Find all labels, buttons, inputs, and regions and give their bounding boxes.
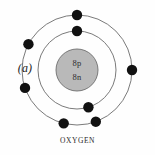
electron xyxy=(20,83,30,93)
electron xyxy=(83,102,93,112)
electron xyxy=(58,118,68,128)
electron xyxy=(23,39,33,49)
nucleus-neutron-label: 8n xyxy=(72,72,82,82)
panel-label: (a) xyxy=(8,61,42,75)
nucleus-proton-label: 8p xyxy=(72,58,81,68)
electron xyxy=(91,116,101,126)
figure-caption: OXYGEN xyxy=(0,136,155,146)
electron xyxy=(127,65,137,75)
atom-diagram: 8p 8n xyxy=(0,0,155,155)
electron xyxy=(72,26,82,36)
bohr-model-figure: 8p 8n (a) OXYGEN xyxy=(0,0,155,155)
electron xyxy=(72,10,82,20)
nucleus xyxy=(56,49,98,91)
